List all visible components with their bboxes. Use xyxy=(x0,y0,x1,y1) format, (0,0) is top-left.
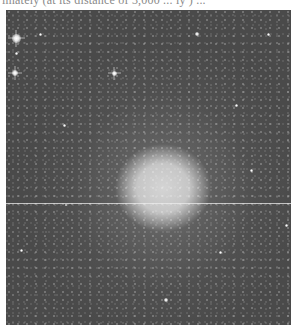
star-field-texture xyxy=(6,10,291,325)
star-point xyxy=(63,124,66,127)
star-point xyxy=(39,33,42,36)
star-point xyxy=(235,104,238,107)
star-point xyxy=(219,251,222,254)
star-point xyxy=(195,32,199,36)
document-page: imately (at its distance of 3,000 ... ly… xyxy=(0,0,291,325)
star-point xyxy=(285,224,288,227)
star-point xyxy=(65,204,67,206)
star-point xyxy=(250,169,253,172)
star-point xyxy=(164,298,168,302)
star-point xyxy=(12,34,21,43)
cropped-caption-text: imately (at its distance of 3,000 ... ly… xyxy=(2,0,291,7)
star-point xyxy=(112,71,117,76)
scan-artifact-line xyxy=(6,203,291,204)
star-point xyxy=(15,52,18,55)
star-point xyxy=(20,249,23,252)
star-point xyxy=(12,70,18,76)
star-point xyxy=(267,33,270,36)
galaxy-photograph xyxy=(6,10,291,325)
